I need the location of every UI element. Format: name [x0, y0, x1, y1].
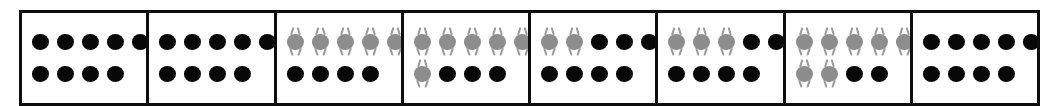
plain-dot-icon — [156, 59, 180, 89]
dot-row-bottom — [531, 59, 655, 89]
dot-row-bottom — [658, 59, 782, 89]
dot-row-top — [149, 27, 273, 57]
plain-dot-icon — [970, 27, 994, 57]
plain-dot-icon — [715, 59, 739, 89]
dot-body — [743, 34, 760, 50]
plain-dot-icon — [995, 59, 1019, 89]
dot-body — [57, 66, 74, 82]
antenna-dot-icon — [665, 27, 689, 57]
dot-body — [616, 66, 633, 82]
antenna-dot-icon — [818, 59, 842, 89]
plain-dot-icon — [156, 27, 180, 57]
dot-row-top — [277, 27, 401, 57]
dot-body — [132, 66, 149, 82]
dot-body — [287, 66, 304, 82]
antenna-dot-icon — [715, 27, 739, 57]
dot-body — [718, 66, 735, 82]
plain-dot-icon — [284, 59, 308, 89]
antenna-dot-icon — [793, 27, 817, 57]
dot-body — [32, 66, 49, 82]
antenna-dot-icon — [843, 27, 867, 57]
dot-body — [591, 66, 608, 82]
plain-dot-icon — [309, 59, 333, 89]
dot-panel-figure — [0, 0, 1058, 104]
plain-dot-icon — [613, 27, 637, 57]
dot-body — [591, 34, 608, 50]
dot-body — [973, 66, 990, 82]
empty-slot — [765, 59, 785, 89]
antenna-dot-icon — [511, 27, 531, 57]
plain-dot-icon — [181, 27, 205, 57]
dot-row-top — [913, 27, 1037, 57]
plain-dot-icon — [54, 27, 78, 57]
empty-slot — [256, 59, 276, 89]
plain-dot-icon — [945, 59, 969, 89]
dot-panel-7 — [786, 13, 913, 103]
panel-strip — [19, 10, 1040, 104]
dot-body — [132, 34, 149, 50]
dot-body — [973, 34, 990, 50]
dot-body — [514, 66, 531, 82]
dot-body — [948, 34, 965, 50]
dot-body — [234, 34, 251, 50]
plain-dot-icon — [256, 27, 276, 57]
antenna-dot-icon — [436, 27, 460, 57]
plain-dot-icon — [181, 59, 205, 89]
dot-body — [871, 66, 888, 82]
dot-body — [107, 66, 124, 82]
dot-row-bottom — [404, 59, 528, 89]
plain-dot-icon — [920, 59, 944, 89]
dot-body — [693, 66, 710, 82]
plain-dot-icon — [765, 27, 785, 57]
plain-dot-icon — [1020, 27, 1037, 57]
dot-body — [489, 66, 506, 82]
dot-body — [57, 34, 74, 50]
empty-slot — [129, 59, 149, 89]
antenna-dot-icon — [461, 27, 485, 57]
plain-dot-icon — [690, 59, 714, 89]
dot-row-bottom — [786, 59, 910, 89]
dot-row-bottom — [22, 59, 146, 89]
antenna-dot-icon — [411, 27, 435, 57]
dot-body — [159, 34, 176, 50]
dot-body — [923, 66, 940, 82]
dot-row-bottom — [149, 59, 273, 89]
empty-slot — [1020, 59, 1037, 89]
plain-dot-icon — [945, 27, 969, 57]
plain-dot-icon — [79, 59, 103, 89]
plain-dot-icon — [79, 27, 103, 57]
antenna-dot-icon — [563, 27, 587, 57]
dot-body — [387, 66, 404, 82]
dot-body — [566, 66, 583, 82]
dot-body — [923, 34, 940, 50]
dot-body — [107, 34, 124, 50]
plain-dot-icon — [538, 59, 562, 89]
plain-dot-icon — [461, 59, 485, 89]
dot-body — [998, 66, 1015, 82]
dot-body — [768, 66, 785, 82]
dot-body — [159, 66, 176, 82]
dot-panel-5 — [531, 13, 658, 103]
dot-panel-6 — [658, 13, 785, 103]
dot-row-top — [531, 27, 655, 57]
dot-body — [998, 34, 1015, 50]
dot-body — [668, 66, 685, 82]
plain-dot-icon — [29, 27, 53, 57]
dot-body — [1023, 34, 1037, 50]
plain-dot-icon — [638, 27, 658, 57]
empty-slot — [638, 59, 658, 89]
dot-body — [82, 66, 99, 82]
plain-dot-icon — [104, 27, 128, 57]
plain-dot-icon — [665, 59, 689, 89]
plain-dot-icon — [613, 59, 637, 89]
plain-dot-icon — [843, 59, 867, 89]
dot-row-bottom — [277, 59, 401, 89]
antenna-dot-icon — [690, 27, 714, 57]
plain-dot-icon — [231, 59, 255, 89]
dot-row-top — [786, 27, 910, 57]
dot-body — [948, 66, 965, 82]
dot-body — [439, 66, 456, 82]
dot-panel-8 — [913, 13, 1037, 103]
plain-dot-icon — [740, 27, 764, 57]
plain-dot-icon — [588, 59, 612, 89]
